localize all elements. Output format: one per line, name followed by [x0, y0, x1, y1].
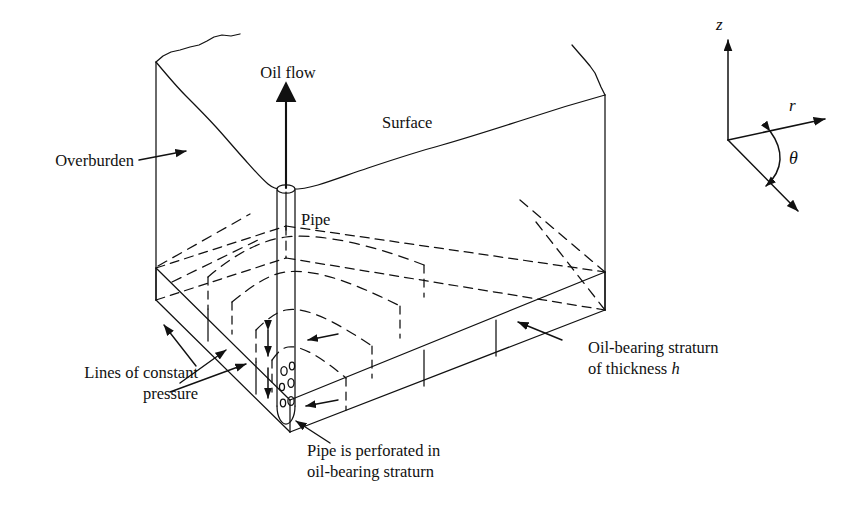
diagram-canvas — [0, 0, 856, 509]
stratum-bottom-back-edge-left — [156, 258, 286, 300]
label-lines-of-constant-pressure-line2: pressure — [8, 383, 198, 404]
label-perforated-line2: oil-bearing straturn — [307, 461, 434, 482]
label-stratum-thickness-text: of thickness — [588, 359, 671, 378]
axis-theta-ray — [728, 140, 798, 211]
label-perforated-line1: Pipe is perforated in — [307, 440, 440, 461]
figure-oil-well-diagram: Oil flow Surface Overburden Pipe Lines o… — [0, 0, 856, 509]
stratum-right-top-edge — [290, 272, 605, 400]
perforation-holes — [280, 362, 295, 407]
label-surface: Surface — [382, 112, 432, 133]
label-stratum-line1: Oil-bearing straturn — [588, 337, 719, 358]
thickness-arrow-right-bottom — [306, 400, 338, 406]
overburden-dashed-diagonal-right-2 — [536, 222, 605, 310]
constant-pressure-leader-1 — [164, 325, 196, 366]
label-stratum-thickness-symbol: h — [671, 359, 679, 378]
thickness-arrow-right-top — [308, 334, 338, 340]
label-stratum-line2: of thickness h — [588, 358, 680, 379]
torn-ground-left — [156, 34, 240, 62]
pressure-arc-2 — [232, 271, 400, 306]
axis-label-z: z — [716, 14, 723, 36]
label-oil-flow: Oil flow — [238, 62, 338, 83]
pressure-arc-1 — [208, 236, 424, 277]
stratum-caption-leader — [518, 322, 562, 340]
label-pipe: Pipe — [301, 209, 330, 230]
axis-label-r: r — [789, 95, 796, 117]
theta-arc — [766, 131, 780, 186]
pressure-arc-4 — [272, 347, 346, 378]
axis-label-theta: θ — [789, 147, 798, 170]
axis-r — [728, 119, 825, 140]
surface-profile — [156, 62, 605, 189]
overburden-dashed-diagonal-left-2 — [172, 240, 258, 282]
pressure-arc-3 — [256, 309, 372, 346]
stratum-bottom-back-edge-right — [286, 258, 605, 310]
overburden-dashed-diagonal-left-1 — [158, 214, 250, 266]
torn-ground-right — [572, 45, 605, 95]
stratum-top-back-edge-left — [156, 226, 286, 268]
overburden-leader-arrow — [139, 151, 186, 160]
label-overburden: Overburden — [0, 150, 134, 171]
label-lines-of-constant-pressure-line1: Lines of constant — [8, 362, 198, 383]
